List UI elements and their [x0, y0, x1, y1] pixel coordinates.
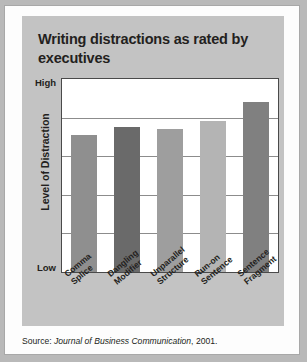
- chart-title: Writing distractions as rated by executi…: [38, 30, 273, 67]
- chart-panel: Writing distractions as rated by executi…: [22, 16, 284, 326]
- source-journal: Journal of Business Communication: [54, 336, 191, 346]
- y-axis-high-label: High: [20, 77, 56, 88]
- plot-area: [61, 78, 279, 273]
- bar: [71, 135, 97, 272]
- bar-series: [62, 79, 278, 272]
- source-prefix: Source:: [22, 336, 54, 346]
- source-suffix: , 2001.: [191, 336, 217, 346]
- figure-card: Writing distractions as rated by executi…: [4, 5, 300, 355]
- y-axis-low-label: Low: [20, 262, 56, 273]
- y-axis-title: Level of Distraction: [39, 92, 51, 232]
- x-axis-labels: CommaSpliceDanglingModifierUnparallelStr…: [61, 272, 277, 330]
- source-note: Source: Journal of Business Communicatio…: [22, 336, 292, 346]
